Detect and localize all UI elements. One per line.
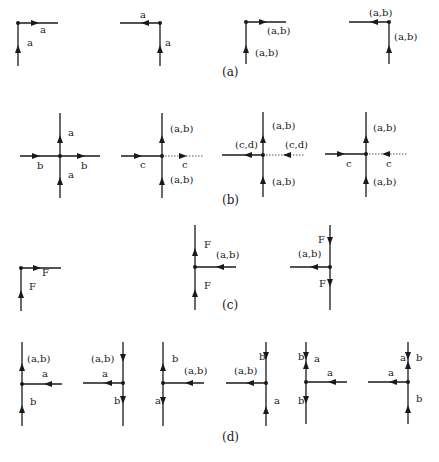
- caption-d: (d): [222, 430, 239, 444]
- panel-b4: (a,b) c c (a,b): [325, 112, 408, 197]
- edge-label: (a,b): [170, 123, 193, 134]
- panel-d5: b a a b: [298, 342, 347, 424]
- panel-b2: (a,b) c c (a,b): [121, 113, 203, 198]
- edge-label: b: [416, 352, 422, 363]
- panel-b1: a b b a: [20, 113, 100, 198]
- edge-label: b: [298, 351, 304, 362]
- edge-label: (a,b): [255, 47, 278, 58]
- panel-c1: F F: [18, 265, 61, 311]
- edge-label: F: [42, 267, 49, 278]
- edge-label: (a,b): [272, 120, 295, 131]
- edge-label: a: [165, 37, 171, 48]
- edge-label: (c,d): [285, 139, 308, 150]
- edge-label: (a,b): [373, 122, 396, 133]
- edge-label: a: [155, 395, 161, 406]
- edge-label: (c,d): [235, 139, 258, 150]
- edge-label: F: [204, 239, 211, 250]
- edge-label: F: [319, 278, 326, 289]
- panel-a2: a a: [120, 9, 171, 66]
- edge-label: b: [81, 160, 87, 171]
- edge-label: (a,b): [27, 353, 50, 364]
- edge-label: (a,b): [91, 353, 114, 364]
- panel-a1: a a: [15, 20, 58, 66]
- edge-label: (a,b): [267, 25, 290, 36]
- edge-label: c: [182, 159, 188, 170]
- caption-b: (b): [222, 193, 239, 207]
- panel-d3: b (a,b) a: [155, 342, 207, 426]
- edge-label: a: [400, 352, 406, 363]
- edge-label: b: [259, 351, 265, 362]
- edge-label: (a,b): [298, 248, 321, 259]
- panel-d4: b (a,b) a: [226, 342, 280, 426]
- panel-b3: (a,b) (c,d) (c,d) (a,b): [222, 112, 308, 197]
- edge-label: b: [172, 353, 178, 364]
- panel-d1: (a,b) a b: [19, 342, 62, 426]
- edge-label: b: [416, 393, 422, 404]
- edge-label: (a,b): [216, 249, 239, 260]
- edge-label: a: [274, 395, 280, 406]
- edge-label: b: [30, 396, 36, 407]
- edge-label: (a,b): [272, 176, 295, 187]
- edge-label: (a,b): [373, 176, 396, 187]
- edge-label: c: [386, 158, 392, 169]
- edge-label: (a,b): [184, 365, 207, 376]
- edge-label: a: [42, 368, 48, 379]
- panel-c3: F (a,b) F: [290, 225, 333, 310]
- edge-label: a: [314, 353, 320, 364]
- panel-a4: (a,b) (a,b): [349, 7, 417, 64]
- edge-label: F: [318, 234, 325, 245]
- edge-label: (a,b): [234, 365, 257, 376]
- edge-label: c: [140, 159, 146, 170]
- edge-label: a: [102, 368, 108, 379]
- edge-label: F: [204, 280, 211, 291]
- edge-label: a: [40, 24, 46, 35]
- vertex-diagram-figure: a a a a (a,b) (a,b) (a) (a,b) (a,b): [0, 0, 439, 462]
- panel-d6: a b a b: [368, 342, 422, 424]
- edge-label: F: [29, 281, 36, 292]
- caption-c: (c): [222, 298, 238, 312]
- edge-label: b: [37, 160, 43, 171]
- edge-label: a: [68, 127, 74, 138]
- edge-label: a: [27, 37, 33, 48]
- panel-a3: (a,b) (a,b): [243, 19, 290, 64]
- edge-label: c: [346, 158, 352, 169]
- edge-label: a: [68, 169, 74, 180]
- edge-label: a: [140, 9, 146, 20]
- edge-label: a: [327, 367, 333, 378]
- edge-label: (a,b): [369, 7, 392, 18]
- edge-label: (a,b): [394, 31, 417, 42]
- panel-d2: (a,b) a b: [83, 342, 126, 426]
- edge-label: b: [298, 395, 304, 406]
- edge-label: b: [114, 395, 120, 406]
- edge-label: a: [388, 367, 394, 378]
- edge-label: (a,b): [170, 174, 193, 185]
- caption-a: (a): [222, 65, 239, 79]
